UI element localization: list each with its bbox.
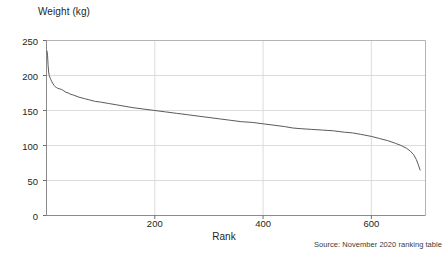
y-tick-label: 50 bbox=[8, 175, 38, 186]
y-tick-label: 150 bbox=[8, 105, 38, 116]
axis-lines bbox=[47, 41, 426, 216]
y-axis-tick-labels: 050100150200250 bbox=[8, 0, 38, 260]
plot-area bbox=[0, 0, 448, 260]
x-tick-label: 400 bbox=[255, 218, 271, 229]
y-tick-label: 200 bbox=[8, 70, 38, 81]
x-tick-label: 200 bbox=[147, 218, 163, 229]
horizontal-gridlines bbox=[47, 41, 426, 181]
y-tick-label: 100 bbox=[8, 140, 38, 151]
y-tick-label: 250 bbox=[8, 35, 38, 46]
source-note: Source: November 2020 ranking table bbox=[314, 240, 442, 249]
chart-container: Weight (kg) 050100150200250 200400600 Ra… bbox=[0, 0, 448, 260]
x-tick-label: 600 bbox=[363, 218, 379, 229]
vertical-gridlines bbox=[155, 41, 372, 216]
y-tick-label: 0 bbox=[8, 210, 38, 221]
